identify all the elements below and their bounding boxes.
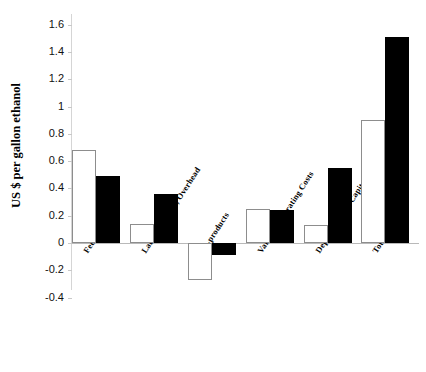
y-tick-mark <box>68 298 72 299</box>
y-tick-label: 0.4 <box>49 182 64 193</box>
bar-chart: US $ per gallon ethanol -0.4-0.200.20.40… <box>0 0 426 372</box>
y-tick-mark <box>68 79 72 80</box>
y-tick-label: -0.4 <box>45 292 64 303</box>
y-tick-mark <box>68 243 72 244</box>
y-tick-label: 1 <box>58 101 64 112</box>
y-tick-label: 1.4 <box>49 46 64 57</box>
bar-white-2 <box>188 243 212 280</box>
bar-white-5 <box>361 120 385 243</box>
y-tick-mark <box>68 270 72 271</box>
bar-white-3 <box>246 209 270 243</box>
y-tick-mark <box>68 134 72 135</box>
y-tick-label: 1.6 <box>49 19 64 30</box>
y-tick-mark <box>68 107 72 108</box>
bar-black-4 <box>328 168 352 243</box>
y-tick-label: 1.2 <box>49 73 64 84</box>
y-tick-label: 0.8 <box>49 128 64 139</box>
y-tick-mark <box>68 52 72 53</box>
y-axis-title: US $ per gallon ethanol <box>9 46 24 246</box>
bar-black-5 <box>385 37 409 243</box>
y-axis-tick-labels: -0.4-0.200.20.40.60.811.21.41.6 <box>36 0 64 372</box>
bar-black-0 <box>96 176 120 243</box>
bar-black-3 <box>270 210 294 243</box>
y-tick-label: 0 <box>58 237 64 248</box>
y-tick-mark <box>68 25 72 26</box>
zero-baseline <box>71 243 419 244</box>
bar-white-1 <box>130 224 154 243</box>
bar-white-4 <box>304 225 328 243</box>
bar-black-1 <box>154 194 178 243</box>
y-tick-label: -0.2 <box>45 264 64 275</box>
bar-black-2 <box>212 243 236 255</box>
y-tick-label: 0.6 <box>49 155 64 166</box>
y-tick-label: 0.2 <box>49 210 64 221</box>
bar-white-0 <box>72 150 96 243</box>
